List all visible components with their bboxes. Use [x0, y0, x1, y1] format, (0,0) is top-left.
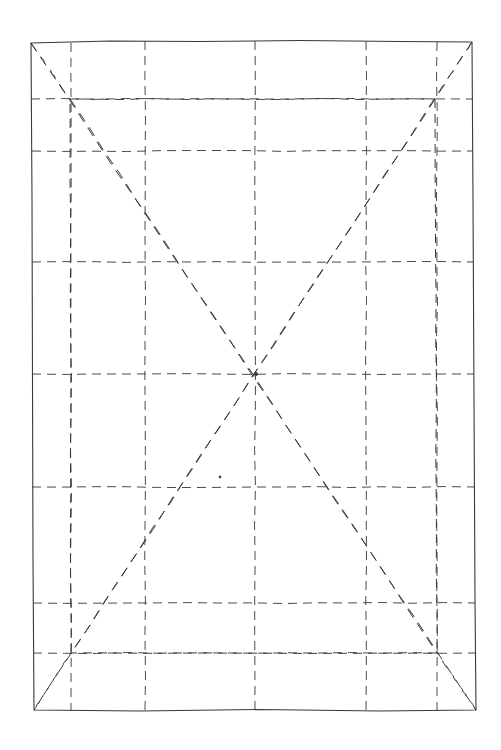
diag-outer-tr-bl [34, 42, 472, 710]
grid-line-v-quarter-left [145, 41, 146, 711]
center-convergence-point [254, 372, 258, 376]
grid-line-h-sixth [33, 602, 475, 603]
grid-line-h-third [32, 261, 474, 262]
diag-tr-corner-to-inner [435, 42, 472, 99]
diagonals-group [31, 42, 476, 710]
center-convergence-point [254, 372, 258, 376]
geometric-figure [0, 0, 501, 750]
grid-line-h-second [32, 151, 473, 152]
grid-line-v-quarter-right [366, 41, 367, 711]
isolated-dot [219, 476, 222, 479]
drawing-canvas [0, 0, 501, 750]
grid-line-h-fifth [32, 487, 475, 488]
stray-marks-group [219, 476, 222, 479]
diag-outer-tl-br [31, 43, 476, 710]
